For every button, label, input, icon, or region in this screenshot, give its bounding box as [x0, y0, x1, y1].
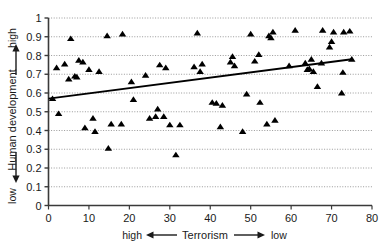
y-tick-label: 0.2 — [26, 162, 41, 174]
x-tick-label: 80 — [366, 212, 378, 224]
chart-figure: 00.10.20.30.40.50.60.70.80.91 0102030405… — [0, 0, 389, 251]
x-tick-label: 70 — [325, 212, 337, 224]
x-tick-label: 60 — [285, 212, 297, 224]
x-tick-label: 40 — [204, 212, 216, 224]
y-tick-label: 0.8 — [26, 50, 41, 62]
y-tick-label: 0.7 — [26, 68, 41, 80]
y-tick-label: 0.9 — [26, 31, 41, 43]
x-tick-label: 30 — [164, 212, 176, 224]
y-tick-label: 0.3 — [26, 143, 41, 155]
y-tick-label: 0.4 — [26, 125, 41, 137]
y-tick-label: 0.5 — [26, 106, 41, 118]
y-tick-label: 0 — [35, 200, 41, 212]
y-tick-label: 0.6 — [26, 87, 41, 99]
x-tick-label: 50 — [245, 212, 257, 224]
y-axis-tick-labels: 00.10.20.30.40.50.60.70.80.91 — [26, 12, 41, 212]
x-tick-label: 10 — [83, 212, 95, 224]
y-axis-low-word: low — [6, 188, 18, 204]
x-tick-label: 20 — [123, 212, 135, 224]
x-axis-title: Terrorism — [182, 229, 228, 241]
y-tick-label: 0.1 — [26, 181, 41, 193]
x-tick-label: 0 — [45, 212, 51, 224]
scatter-plot: 00.10.20.30.40.50.60.70.80.91 0102030405… — [0, 0, 389, 251]
x-axis-high-word: high — [122, 229, 142, 241]
y-tick-label: 1 — [35, 12, 41, 24]
x-axis-low-word: low — [271, 229, 287, 241]
